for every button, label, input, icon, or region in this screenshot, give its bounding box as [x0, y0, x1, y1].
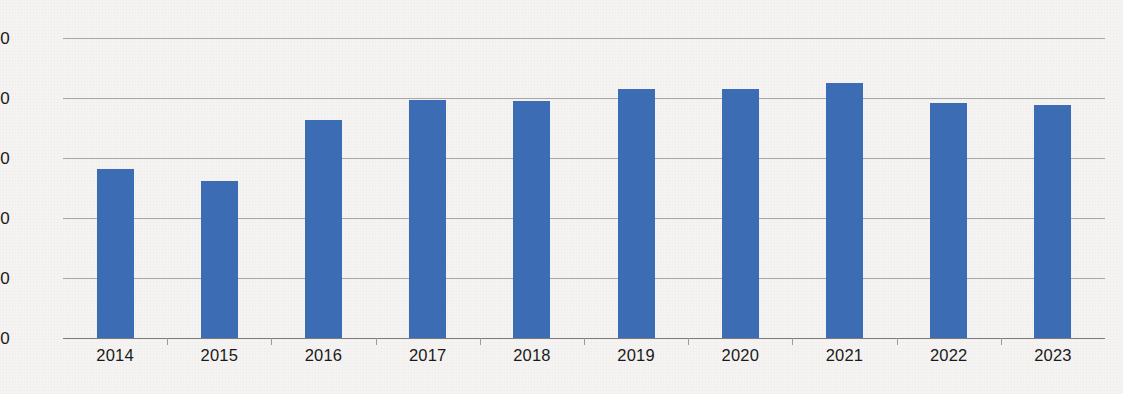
bar [826, 83, 863, 338]
y-axis-tick-label: 100 [0, 270, 10, 287]
bars-layer [63, 38, 1105, 338]
x-axis-tick-label: 2022 [930, 346, 968, 365]
x-axis-tick-mark [480, 338, 481, 345]
bar [722, 89, 759, 338]
bar [513, 101, 550, 338]
bar [97, 169, 134, 338]
x-axis-tick-label: 2018 [513, 346, 551, 365]
bar-chart: 5004003002001000 20142015201620172018201… [0, 0, 1123, 394]
x-axis-tick-label: 2019 [617, 346, 655, 365]
x-axis-tick-mark [688, 338, 689, 345]
x-axis-tick-mark [792, 338, 793, 345]
bar [930, 103, 967, 338]
bar [409, 100, 446, 338]
x-axis-tick-mark [271, 338, 272, 345]
x-axis-tick-label: 2017 [409, 346, 447, 365]
y-axis-tick-label: 200 [0, 210, 10, 227]
x-axis-tick-mark [1001, 338, 1002, 345]
plot-area [63, 38, 1105, 338]
x-axis-tick-label: 2014 [96, 346, 134, 365]
bar [618, 89, 655, 338]
x-axis-tick-label: 2020 [722, 346, 760, 365]
x-axis-tick-mark [167, 338, 168, 345]
y-axis-tick-label: 0 [0, 330, 10, 347]
x-axis-tick-label: 2015 [201, 346, 239, 365]
x-axis-tick-mark [376, 338, 377, 345]
y-axis-tick-label: 300 [0, 150, 10, 167]
x-axis-tick-label: 2016 [305, 346, 343, 365]
y-axis-tick-label: 500 [0, 30, 10, 47]
bar [201, 181, 238, 338]
bar [305, 120, 342, 338]
bar [1034, 105, 1071, 338]
x-axis-tick-label: 2021 [826, 346, 864, 365]
y-axis-tick-label: 400 [0, 90, 10, 107]
x-axis-tick-mark [584, 338, 585, 345]
x-axis-tick-mark [897, 338, 898, 345]
x-axis-tick-label: 2023 [1034, 346, 1072, 365]
